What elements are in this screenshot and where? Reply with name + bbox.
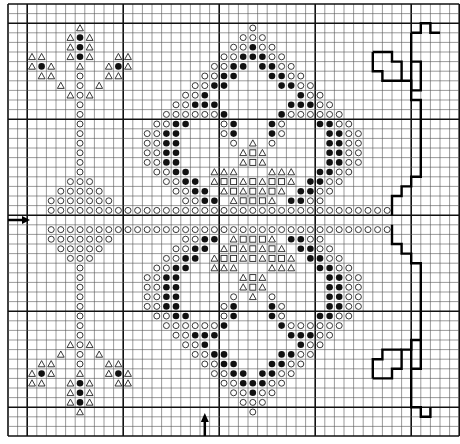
stitch-open-circle — [67, 227, 73, 233]
stitch-open-circle — [58, 227, 64, 233]
stitch-open-circle — [365, 227, 371, 233]
stitch-open-circle — [77, 169, 83, 175]
stitch-open-triangle — [67, 389, 74, 395]
stitch-open-triangle — [240, 255, 247, 261]
stitch-open-circle — [163, 121, 169, 127]
stitch-filled-circle — [221, 73, 228, 80]
stitch-open-triangle — [269, 265, 276, 271]
stitch-open-triangle — [105, 370, 112, 376]
stitch-open-circle — [355, 284, 361, 290]
stitch-open-triangle — [38, 73, 45, 79]
stitch-filled-circle — [278, 111, 285, 118]
stitch-open-circle — [288, 207, 294, 213]
stitch-open-triangle — [278, 265, 285, 271]
stitch-open-square — [250, 275, 256, 281]
stitch-open-circle — [173, 332, 179, 338]
stitch-open-circle — [346, 159, 352, 165]
stitch-open-circle — [279, 380, 285, 386]
stitch-open-circle — [77, 111, 83, 117]
stitch-filled-circle — [326, 313, 333, 320]
stitch-open-circle — [87, 198, 93, 204]
stitch-open-triangle — [38, 361, 45, 367]
stitch-open-circle — [144, 131, 150, 137]
stitch-open-triangle — [221, 245, 228, 251]
stitch-filled-circle — [317, 255, 324, 262]
stitch-filled-circle — [298, 102, 305, 109]
stitch-open-circle — [183, 323, 189, 329]
stitch-open-triangle — [29, 53, 36, 59]
stitch-open-circle — [77, 332, 83, 338]
stitch-open-square — [269, 188, 275, 194]
stitch-open-triangle — [38, 380, 45, 386]
stitch-open-circle — [298, 73, 304, 79]
stitch-open-circle — [67, 255, 73, 261]
stitch-open-circle — [192, 227, 198, 233]
stitch-open-circle — [221, 121, 227, 127]
stitch-filled-circle — [250, 54, 257, 61]
stitch-open-square — [269, 246, 275, 252]
stitch-open-triangle — [86, 341, 93, 347]
stitch-open-circle — [336, 121, 342, 127]
stitch-open-circle — [77, 207, 83, 213]
stitch-open-circle — [125, 207, 131, 213]
stitch-filled-circle — [230, 63, 237, 70]
stitch-filled-circle — [269, 370, 276, 377]
stitch-open-square — [221, 255, 227, 261]
stitch-filled-circle — [298, 246, 305, 253]
stitch-open-circle — [259, 399, 265, 405]
stitch-open-circle — [317, 323, 323, 329]
stitch-open-circle — [269, 294, 275, 300]
stitch-filled-circle — [288, 198, 295, 205]
stitch-filled-circle — [173, 150, 180, 157]
stitch-open-circle — [115, 227, 121, 233]
stitch-open-triangle — [67, 399, 74, 405]
stitch-open-circle — [211, 227, 217, 233]
stitch-open-circle — [77, 73, 83, 79]
stitch-open-circle — [67, 188, 73, 194]
stitch-open-triangle — [86, 53, 93, 59]
stitch-open-circle — [77, 255, 83, 261]
stitch-open-circle — [154, 169, 160, 175]
stitch-filled-circle — [317, 265, 324, 272]
stitch-open-circle — [211, 111, 217, 117]
stitch-filled-circle — [288, 102, 295, 109]
stitch-open-circle — [135, 207, 141, 213]
stitch-open-circle — [327, 102, 333, 108]
stitch-filled-circle — [298, 92, 305, 99]
stitch-filled-circle — [288, 351, 295, 358]
stitch-open-circle — [154, 303, 160, 309]
stitch-open-square — [269, 179, 275, 185]
stitch-open-circle — [192, 342, 198, 348]
stitch-open-circle — [355, 131, 361, 137]
stitch-open-circle — [211, 63, 217, 69]
stitch-open-circle — [231, 390, 237, 396]
stitch-open-circle — [106, 198, 112, 204]
stitch-open-circle — [317, 342, 323, 348]
stitch-filled-circle — [163, 159, 170, 166]
stitch-open-triangle — [269, 236, 276, 242]
stitch-open-circle — [211, 73, 217, 79]
stitch-filled-circle — [336, 130, 343, 137]
stitch-open-circle — [240, 44, 246, 50]
stitch-filled-circle — [269, 313, 276, 320]
cross-stitch-chart — [0, 0, 460, 444]
stitch-open-circle — [288, 323, 294, 329]
stitch-open-circle — [279, 54, 285, 60]
stitch-open-circle — [346, 284, 352, 290]
stitch-filled-circle — [230, 361, 237, 368]
stitch-open-circle — [317, 236, 323, 242]
stitch-open-circle — [211, 371, 217, 377]
stitch-filled-circle — [182, 121, 189, 128]
stitch-open-circle — [307, 207, 313, 213]
stitch-filled-circle — [77, 34, 84, 41]
stitch-open-triangle — [77, 409, 84, 415]
stitch-filled-circle — [211, 332, 218, 339]
stitch-filled-circle — [336, 150, 343, 157]
stitch-open-circle — [87, 255, 93, 261]
stitch-open-circle — [317, 207, 323, 213]
stitch-open-circle — [365, 207, 371, 213]
stitch-open-circle — [307, 198, 313, 204]
stitch-open-circle — [355, 294, 361, 300]
stitch-filled-circle — [173, 169, 180, 176]
stitch-open-circle — [279, 371, 285, 377]
